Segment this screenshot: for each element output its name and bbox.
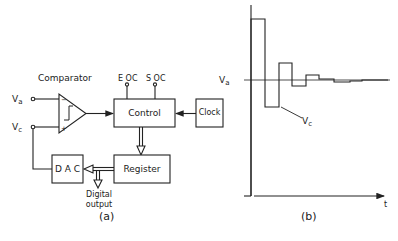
svg-text:+: + [61,125,67,133]
caption-b: (b) [301,211,317,223]
va-input-label: Va [12,94,22,107]
dac-label: D A C [52,164,83,174]
va-level-label: Va [219,75,229,88]
vc-subscript: c [18,126,22,134]
eoc-label: E OC [118,74,137,84]
diagram-canvas: − + [0,0,398,241]
time-axis-label: t [384,200,387,210]
digital-output-label-line2: output [84,200,114,210]
comparator-label: Comparator [38,73,92,83]
vc-wave-subscript: c [308,120,312,128]
va-terminal-icon [31,97,35,101]
waveform-b [244,5,390,196]
va-subscript: a [18,98,22,106]
svg-text:−: − [61,96,67,104]
caption-a: (a) [99,211,114,223]
digital-output-label-line1: Digital [84,190,114,200]
va-level-subscript: a [225,79,229,87]
clock-label: Clock [196,108,223,118]
vc-waveform-label: Vc [302,116,312,129]
soc-label: S OC [146,74,166,84]
vc-leader-line [281,107,302,118]
vc-terminal-icon [31,125,35,129]
register-label: Register [114,164,170,174]
vc-waveform [251,19,388,196]
control-label: Control [114,108,175,118]
vc-input-label: Vc [12,122,22,135]
